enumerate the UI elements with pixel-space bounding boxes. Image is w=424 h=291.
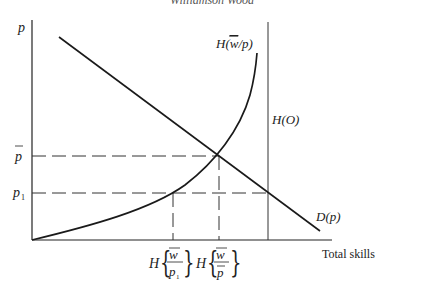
supply-curve-label: H(w/p) [215, 36, 253, 51]
x-axis-label: Total skills [322, 247, 375, 261]
svg-text:p: p [14, 149, 22, 164]
svg-text:H: H [195, 256, 207, 271]
svg-text:w: w [169, 247, 178, 262]
demand-line [59, 37, 320, 231]
x-tick-h-w-pbar: H { w p } [195, 244, 241, 280]
y-tick-pbar: p [14, 146, 23, 164]
svg-text:}: } [183, 244, 194, 279]
svg-text:w: w [216, 247, 225, 262]
svg-text:H: H [148, 256, 160, 271]
svg-text:}: } [230, 244, 241, 279]
supply-curve [32, 53, 257, 240]
svg-text:p: p [216, 265, 224, 280]
svg-text:p: p [168, 264, 176, 279]
svg-text:p: p [12, 185, 20, 200]
y-axis-label: p [17, 20, 25, 35]
limit-line-label: H(O) [271, 112, 299, 127]
svg-text:1: 1 [21, 193, 25, 202]
y-tick-p1: p 1 [12, 185, 25, 202]
x-tick-h-w-p1: H { w p 1 } [148, 244, 194, 281]
svg-text:1: 1 [176, 273, 180, 281]
demand-line-label: D(p) [315, 209, 341, 224]
economic-diagram: Williamson Wood p Total skills H(O) D(p)… [0, 0, 424, 291]
page-header: Williamson Wood [170, 0, 255, 7]
